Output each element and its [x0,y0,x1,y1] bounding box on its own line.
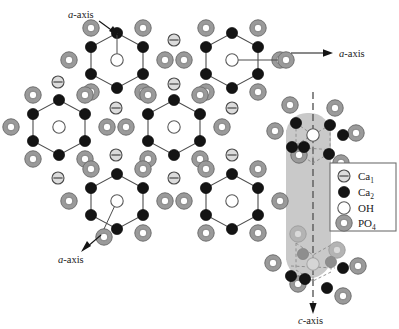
ca1-marker [338,170,350,182]
a-axis-top-left-label: a-axis [68,9,94,20]
oh-atom [53,121,65,133]
hexagon-unit-top-left [61,20,173,100]
a-axis-right-label: a-axis [339,48,365,59]
hexagon-unit-bottom-right [176,161,288,241]
hexagon-unit-mid-center [118,87,230,167]
hexagon-unit-bottom-left [61,161,173,245]
po4-marker [336,215,352,231]
oh-atom [307,129,319,141]
oh-atom [168,121,180,133]
oh-atom [226,195,238,207]
oh-atom [111,54,123,66]
legend: Ca1 Ca2 OH PO4 [330,163,396,232]
a-axis-bottom-left-label: a-axis [58,254,84,265]
hexagon-unit-top-right [176,20,294,100]
oh-atom [226,54,238,66]
c-axis-bottom: c-axis [298,315,323,326]
oh-marker [338,202,350,214]
oh-atom [111,195,123,207]
crystal-structure-diagram: a-axis a-axis a-axis c-axis [0,0,399,329]
c-axis-bottom-label: c-axis [298,315,323,326]
a-axis-bottom-left: a-axis [58,235,101,265]
legend-label-oh: OH [358,202,374,214]
a-axis-right: a-axis [291,48,365,59]
hexagon-unit-mid-left [3,87,115,167]
oh-atom [307,258,319,270]
ca2-marker [338,186,349,197]
figure-canvas: a-axis a-axis a-axis c-axis [0,0,399,329]
